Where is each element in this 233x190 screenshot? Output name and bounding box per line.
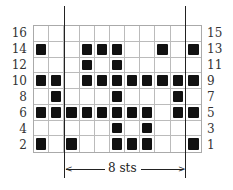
row-number-left: 8 (5, 89, 27, 105)
empty-stitch (110, 26, 125, 42)
empty-stitch (64, 73, 79, 89)
empty-stitch (64, 26, 79, 42)
empty-stitch (64, 42, 79, 58)
filled-stitch (80, 58, 95, 74)
empty-stitch (171, 26, 186, 42)
empty-stitch (49, 121, 64, 137)
filled-stitch (34, 136, 49, 152)
filled-stitch (110, 121, 125, 137)
empty-stitch (155, 121, 170, 137)
empty-stitch (125, 121, 140, 137)
empty-stitch (34, 26, 49, 42)
empty-stitch (155, 89, 170, 105)
filled-stitch (95, 42, 110, 58)
repeat-line-left (64, 6, 65, 178)
filled-stitch (186, 136, 201, 152)
filled-stitch (140, 105, 155, 121)
filled-stitch (171, 89, 186, 105)
repeat-label: 8 sts (105, 161, 140, 175)
filled-stitch (34, 105, 49, 121)
row-number-right: 15 (207, 25, 222, 41)
empty-stitch (186, 89, 201, 105)
row-number-right: 11 (207, 57, 222, 73)
empty-stitch (125, 89, 140, 105)
empty-stitch (95, 136, 110, 152)
empty-stitch (186, 58, 201, 74)
repeat-arrow-right (141, 169, 183, 170)
row-number-right: 5 (207, 105, 215, 121)
empty-stitch (64, 89, 79, 105)
empty-stitch (49, 42, 64, 58)
empty-stitch (155, 136, 170, 152)
filled-stitch (80, 105, 95, 121)
arrow-head-left-icon: < (65, 165, 73, 174)
empty-stitch (125, 58, 140, 74)
empty-stitch (171, 136, 186, 152)
empty-stitch (49, 58, 64, 74)
empty-stitch (95, 26, 110, 42)
row-number-right: 9 (207, 73, 215, 89)
filled-stitch (125, 73, 140, 89)
empty-stitch (80, 136, 95, 152)
filled-stitch (186, 105, 201, 121)
empty-stitch (64, 121, 79, 137)
repeat-line-right (185, 6, 186, 178)
filled-stitch (80, 73, 95, 89)
filled-stitch (49, 73, 64, 89)
row-number-left: 16 (5, 25, 27, 41)
empty-stitch (95, 58, 110, 74)
filled-stitch (171, 105, 186, 121)
filled-stitch (110, 105, 125, 121)
empty-stitch (125, 26, 140, 42)
filled-stitch (110, 58, 125, 74)
empty-stitch (155, 105, 170, 121)
filled-stitch (34, 73, 49, 89)
empty-stitch (49, 26, 64, 42)
empty-stitch (171, 42, 186, 58)
empty-stitch (186, 121, 201, 137)
empty-stitch (80, 26, 95, 42)
filled-stitch (64, 136, 79, 152)
row-number-left: 10 (5, 73, 27, 89)
filled-stitch (186, 73, 201, 89)
filled-stitch (95, 73, 110, 89)
empty-stitch (140, 89, 155, 105)
filled-stitch (171, 73, 186, 89)
row-number-left: 2 (5, 137, 27, 153)
empty-stitch (80, 89, 95, 105)
empty-stitch (49, 136, 64, 152)
row-number-right: 13 (207, 41, 222, 57)
empty-stitch (155, 26, 170, 42)
empty-stitch (171, 58, 186, 74)
filled-stitch (140, 73, 155, 89)
filled-stitch (64, 105, 79, 121)
empty-stitch (125, 42, 140, 58)
filled-stitch (110, 42, 125, 58)
filled-stitch (140, 121, 155, 137)
filled-stitch (110, 73, 125, 89)
row-number-left: 14 (5, 41, 27, 57)
empty-stitch (80, 121, 95, 137)
row-number-left: 4 (5, 121, 27, 137)
empty-stitch (64, 58, 79, 74)
empty-stitch (95, 89, 110, 105)
empty-stitch (140, 58, 155, 74)
empty-stitch (171, 121, 186, 137)
row-number-left: 6 (5, 105, 27, 121)
filled-stitch (49, 105, 64, 121)
arrow-head-right-icon: > (178, 165, 186, 174)
filled-stitch (110, 89, 125, 105)
row-number-right: 7 (207, 89, 215, 105)
empty-stitch (186, 26, 201, 42)
empty-stitch (140, 42, 155, 58)
knitting-chart-grid (33, 25, 202, 153)
empty-stitch (95, 121, 110, 137)
empty-stitch (34, 121, 49, 137)
empty-stitch (34, 89, 49, 105)
empty-stitch (140, 26, 155, 42)
filled-stitch (110, 136, 125, 152)
empty-stitch (34, 58, 49, 74)
filled-stitch (186, 42, 201, 58)
filled-stitch (34, 42, 49, 58)
filled-stitch (49, 89, 64, 105)
